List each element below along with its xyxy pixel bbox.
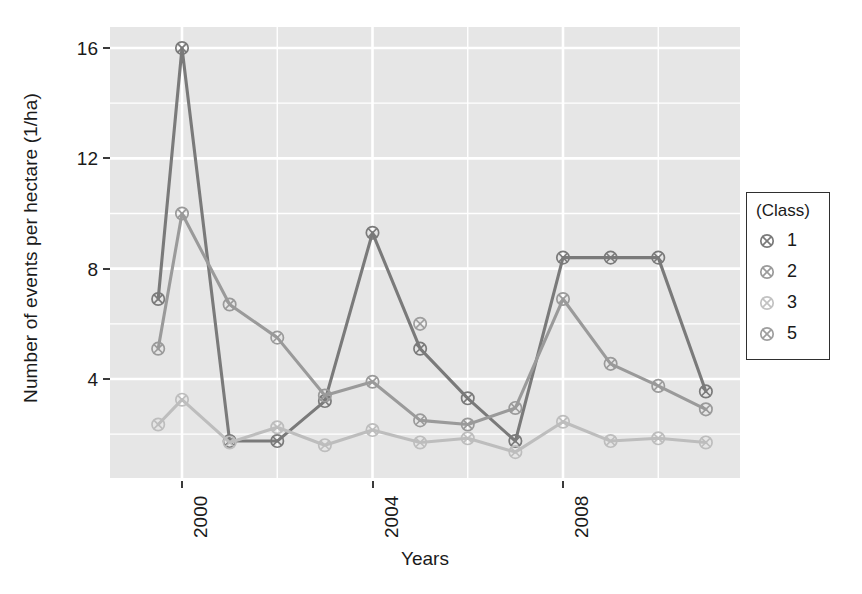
line-chart: Number of events per hectare (1/ha) 4812…	[0, 0, 862, 594]
legend-title: (Class)	[756, 201, 820, 221]
x-tick-mark	[562, 481, 564, 488]
crossed-circle-marker-icon	[756, 323, 778, 345]
x-tick-label: 2008	[572, 496, 591, 538]
x-tick-label: 2000	[191, 496, 210, 538]
x-tick-label: 2004	[382, 496, 401, 538]
x-tick-mark	[372, 481, 374, 488]
y-axis-tick-labels: 481216	[58, 0, 98, 594]
y-tick-mark	[103, 378, 110, 380]
legend: (Class) 1235	[746, 192, 830, 360]
crossed-circle-marker-icon	[756, 261, 778, 283]
y-tick-mark	[103, 268, 110, 270]
y-tick-label: 8	[58, 259, 98, 278]
crossed-circle-marker-icon	[756, 292, 778, 314]
y-axis-title: Number of events per hectare (1/ha)	[14, 18, 48, 478]
y-tick-label: 4	[58, 370, 98, 389]
data-point-marker	[761, 327, 773, 339]
y-tick-mark	[103, 157, 110, 159]
x-axis-title: Years	[110, 548, 740, 570]
y-tick-mark	[103, 47, 110, 49]
plot-area	[0, 0, 862, 594]
data-point-marker	[761, 265, 773, 277]
legend-item-label: 5	[787, 323, 797, 344]
y-tick-label: 12	[58, 149, 98, 168]
legend-item-class-2[interactable]: 2	[756, 256, 820, 287]
legend-item-label: 1	[787, 230, 797, 251]
crossed-circle-marker-icon	[756, 230, 778, 252]
x-tick-mark	[181, 481, 183, 488]
y-tick-label: 16	[58, 39, 98, 58]
legend-item-class-1[interactable]: 1	[756, 225, 820, 256]
legend-item-class-5[interactable]: 5	[756, 318, 820, 349]
panel-background	[110, 27, 740, 478]
legend-entries: 1235	[756, 225, 820, 349]
data-point-marker	[761, 296, 773, 308]
legend-item-label: 2	[787, 261, 797, 282]
legend-item-class-3[interactable]: 3	[756, 287, 820, 318]
data-point-marker	[761, 234, 773, 246]
legend-item-label: 3	[787, 292, 797, 313]
